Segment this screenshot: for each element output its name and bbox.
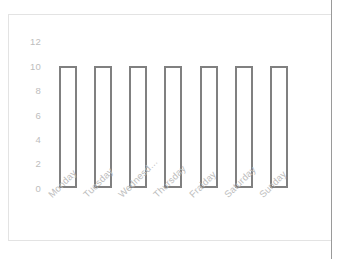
- y-tick-label: 10: [30, 60, 41, 71]
- plot-area: 12 10 8 6 4 2 0: [50, 41, 297, 188]
- x-axis-labels: Monday Tuesday Wednesd… Thursday Fraiday…: [50, 190, 297, 250]
- x-label-slot: Monday: [50, 190, 85, 250]
- bar-slot: [262, 41, 297, 188]
- y-tick-label: 2: [36, 158, 41, 169]
- chart-screenshot: 12 10 8 6 4 2 0: [0, 0, 342, 259]
- x-label-slot: Saturday: [226, 190, 261, 250]
- bar-slot: [191, 41, 226, 188]
- bar-slot: [85, 41, 120, 188]
- bar-chart: 12 10 8 6 4 2 0: [0, 0, 342, 259]
- x-label-slot: Thursday: [156, 190, 191, 250]
- bar-slot: [50, 41, 85, 188]
- y-tick-label: 12: [30, 36, 41, 47]
- y-tick-label: 8: [36, 84, 41, 95]
- bar-slot: [226, 41, 261, 188]
- x-label-slot: Sunday: [262, 190, 297, 250]
- x-label-slot: Fraiday: [191, 190, 226, 250]
- x-label-slot: Wednesd…: [121, 190, 156, 250]
- bar-slot: [156, 41, 191, 188]
- y-tick-label: 6: [36, 109, 41, 120]
- y-tick-label: 4: [36, 134, 41, 145]
- y-tick-label: 0: [36, 183, 41, 194]
- x-label-slot: Tuesday: [85, 190, 120, 250]
- bar-series: [50, 41, 297, 188]
